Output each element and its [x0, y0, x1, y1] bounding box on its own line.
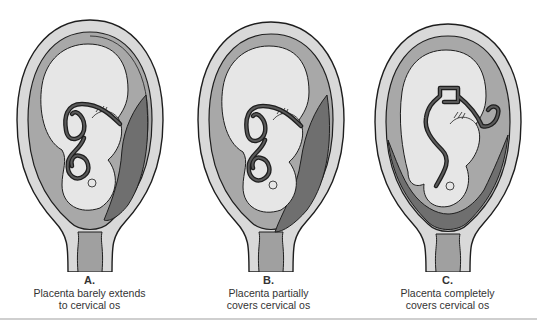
- panel-letter: B.: [179, 274, 358, 286]
- panel-caption: Placenta barely extends to cervical os: [0, 287, 179, 311]
- uterus-illustration-a: [0, 0, 179, 272]
- panel-c: C. Placenta completely covers cervical o…: [358, 0, 537, 320]
- uterus-illustration-b: [179, 0, 358, 272]
- uterus-illustration-c: [358, 0, 537, 272]
- caption-divider: [0, 318, 537, 320]
- panel-b: B. Placenta partially covers cervical os: [179, 0, 358, 320]
- panel-letter: A.: [0, 274, 179, 286]
- panel-caption: Placenta completely covers cervical os: [358, 287, 537, 311]
- panel-caption: Placenta partially covers cervical os: [179, 287, 358, 311]
- figure-caption-cutoff: [0, 323, 537, 332]
- panel-letter: C.: [358, 274, 537, 286]
- panel-a: A. Placenta barely extends to cervical o…: [0, 0, 179, 320]
